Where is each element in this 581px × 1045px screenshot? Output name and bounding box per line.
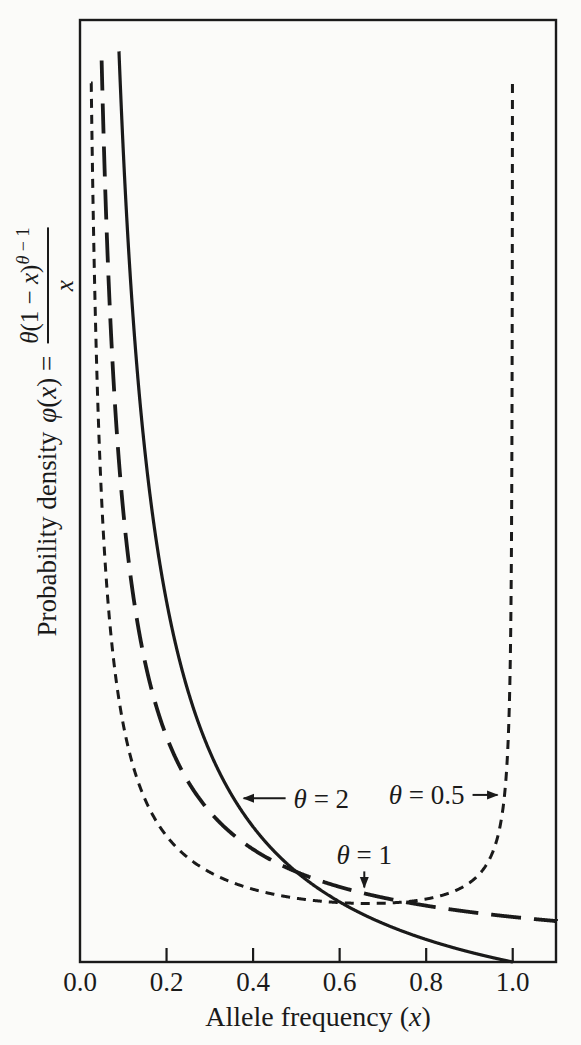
plot-frame: [80, 20, 556, 962]
fraction-denominator: x: [51, 280, 79, 291]
x-tick-label: 0.6: [323, 967, 357, 997]
fraction-numerator: θ(1 − x)θ − 1: [16, 228, 44, 344]
x-tick-label: 1.0: [496, 967, 530, 997]
x-tick-label: 0.0: [63, 967, 97, 997]
y-axis-label: Probability densityφ(x) = θ(1 − x)θ − 1 …: [16, 228, 78, 637]
figure-page: 0.00.20.40.60.81.0θ = 2θ = 0.5θ = 1 Alle…: [0, 0, 581, 1045]
x-tick-label: 0.8: [409, 967, 443, 997]
curve-theta-2: [119, 52, 513, 962]
plot-svg: 0.00.20.40.60.81.0θ = 2θ = 0.5θ = 1: [0, 0, 581, 1045]
x-tick-label: 0.4: [236, 967, 270, 997]
annotation-label-theta-1: θ = 1: [337, 840, 393, 870]
annotation-label-theta-0-5: θ = 0.5: [389, 780, 465, 810]
fraction-bar: [47, 228, 49, 344]
x-tick-label: 0.2: [150, 967, 184, 997]
annotation-label-theta-2: θ = 2: [294, 784, 350, 814]
x-axis-label-text: Allele frequency: [205, 1001, 392, 1032]
x-axis-label-variable: (x): [400, 1001, 431, 1032]
y-axis-label-function: φ(x) =: [32, 356, 63, 423]
numerator-exponent: θ − 1: [13, 228, 33, 265]
y-axis-label-text: Probability density: [32, 432, 63, 637]
formula-fraction: θ(1 − x)θ − 1 x: [16, 228, 78, 344]
numerator-base: θ(1 − x): [16, 265, 43, 344]
x-axis-label: Allele frequency (x): [80, 1001, 556, 1033]
